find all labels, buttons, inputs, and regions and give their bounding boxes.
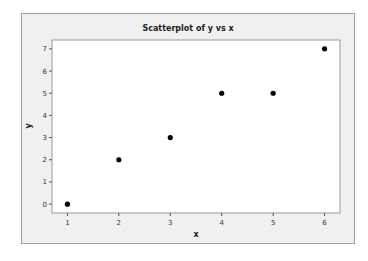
y-tick-label: 1 [43,178,47,186]
y-tick-label: 5 [43,90,47,98]
x-axis: 123456 [65,213,327,227]
y-axis: 01234567 [43,45,52,208]
x-tick-label: 5 [271,219,275,227]
x-tick-label: 2 [117,219,121,227]
y-tick-label: 7 [43,45,47,53]
y-tick-label: 3 [43,134,47,142]
data-point [168,135,173,140]
data-point [116,157,121,162]
x-tick-label: 1 [65,219,69,227]
y-axis-label: y [24,123,33,129]
x-tick-label: 3 [168,219,172,227]
y-tick-label: 2 [43,156,47,164]
data-point [271,91,276,96]
data-point [219,91,224,96]
y-tick-label: 0 [43,201,47,209]
y-tick-label: 6 [43,68,48,76]
y-tick-label: 4 [43,112,48,120]
scatter-plot: 123456 01234567 x y [0,0,368,261]
data-point [65,202,70,207]
data-point [322,46,327,51]
plot-area [52,40,340,213]
x-tick-label: 6 [322,219,327,227]
x-tick-label: 4 [219,219,224,227]
x-axis-label: x [193,230,199,239]
